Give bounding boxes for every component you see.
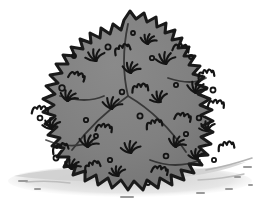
ground-speckle <box>34 188 41 190</box>
ground-speckle <box>196 192 205 194</box>
ground-speckle <box>225 188 233 190</box>
bush-illustration <box>0 0 263 210</box>
ground-speckle <box>243 166 252 168</box>
ground-speckle <box>18 180 28 182</box>
illustration-canvas: Bush A cartoon shrub: a rounded gray bus… <box>0 0 263 210</box>
ground-speckle <box>120 196 134 198</box>
ground-speckle <box>234 176 241 178</box>
ground-speckle <box>248 184 253 186</box>
